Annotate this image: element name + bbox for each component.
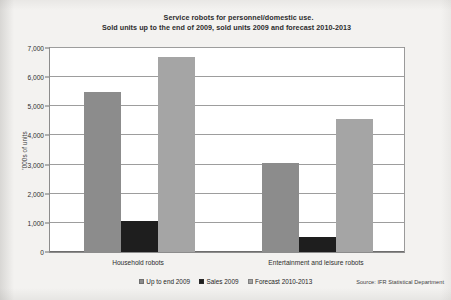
chart-page: Service robots for personnel/domestic us… — [0, 0, 451, 300]
x-axis-category-label: Entertainment and leisure robots — [268, 259, 363, 266]
bar-2-2 — [299, 237, 336, 252]
legend-swatch-icon — [139, 279, 144, 284]
bar-1-3 — [158, 57, 195, 252]
chart-title-block: Service robots for personnel/domestic us… — [0, 13, 451, 33]
y-axis-tick-label: 4,000 — [27, 132, 44, 139]
chart-title: Service robots for personnel/domestic us… — [0, 13, 451, 23]
y-axis-tick-label: 3,000 — [27, 161, 44, 168]
source-note: Source: IFR Statistical Department — [356, 279, 444, 285]
bar-1-2 — [121, 221, 158, 252]
legend-item[interactable]: Sales 2009 — [199, 278, 238, 285]
y-axis: 7,0006,0005,0004,0003,0002,0001,0000 — [0, 47, 49, 253]
legend-swatch-icon — [199, 279, 204, 284]
chart-subtitle: Sold units up to the end of 2009, sold u… — [0, 23, 451, 33]
x-axis-category-label: Household robots — [112, 259, 164, 266]
legend-label: Forecast 2010-2013 — [255, 278, 312, 285]
bar-1-1 — [84, 92, 121, 252]
legend-label: Sales 2009 — [207, 278, 239, 285]
gridline — [50, 47, 404, 48]
gridline — [50, 76, 404, 77]
bar-2-1 — [262, 163, 299, 252]
y-axis-tick-label: 6,000 — [27, 74, 44, 81]
y-axis-tick-label: 0 — [40, 249, 44, 256]
plot-area — [49, 47, 405, 253]
bar-2-3 — [336, 119, 373, 252]
legend-swatch-icon — [248, 279, 253, 284]
y-axis-tick-label: 5,000 — [27, 103, 44, 110]
y-axis-tick-label: 1,000 — [27, 219, 44, 226]
legend-item[interactable]: Up to end 2009 — [139, 278, 190, 285]
legend-item[interactable]: Forecast 2010-2013 — [248, 278, 313, 285]
y-axis-tick-label: 7,000 — [27, 45, 44, 52]
y-axis-tick-label: 2,000 — [27, 190, 44, 197]
legend-label: Up to end 2009 — [146, 278, 190, 285]
